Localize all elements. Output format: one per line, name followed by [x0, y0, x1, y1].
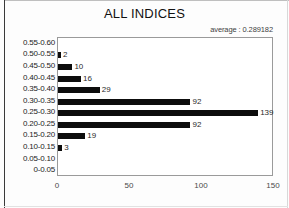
bar-value-label: 16	[83, 75, 92, 83]
bar-value-label: 29	[102, 86, 111, 94]
y-tick-label: 0.55-0.60	[23, 39, 55, 47]
x-tick-label: 100	[194, 182, 207, 190]
bar-row: 10	[58, 63, 272, 71]
bar-row: 3	[58, 144, 272, 152]
bar[interactable]	[58, 99, 190, 105]
x-tick-label: 0	[55, 182, 59, 190]
bar-value-label: 10	[74, 63, 83, 71]
bar-row: 92	[58, 98, 272, 106]
bar-row: 139	[58, 109, 272, 117]
bar-value-label: 92	[192, 98, 201, 106]
x-tick-label: 150	[266, 182, 279, 190]
bar-value-label: 92	[192, 121, 201, 129]
bar[interactable]	[58, 133, 85, 139]
bar-row: 92	[58, 121, 272, 129]
y-axis: 0.55-0.600.50-0.550.45-0.500.40-0.450.35…	[8, 37, 55, 176]
average-annotation: average : 0.289182	[210, 25, 273, 34]
x-tick-label: 50	[125, 182, 134, 190]
bars-layer: 21016299213992193	[58, 38, 272, 175]
bar-row: 2	[58, 51, 272, 59]
plot-area: 21016299213992193	[57, 37, 273, 176]
x-axis: 050100150	[57, 182, 273, 196]
y-tick-label: 0.40-0.45	[23, 74, 55, 82]
chart-window: ALL INDICES average : 0.289182 0.55-0.60…	[0, 0, 289, 208]
bar-row	[58, 156, 272, 164]
y-tick-label: 0.10-0.15	[23, 143, 55, 151]
chart-title: ALL INDICES	[0, 6, 289, 21]
bar-row: 16	[58, 75, 272, 83]
y-tick-label: 0.30-0.35	[23, 97, 55, 105]
bar[interactable]	[58, 76, 81, 82]
y-tick-label: 0.50-0.55	[23, 50, 55, 58]
bar-value-label: 139	[260, 109, 273, 117]
bar[interactable]	[58, 145, 62, 151]
y-tick-label: 0.35-0.40	[23, 85, 55, 93]
bar-row: 29	[58, 86, 272, 94]
window-frame-right	[287, 0, 288, 208]
window-frame-left	[4, 0, 5, 208]
y-tick-label: 0.20-0.25	[23, 120, 55, 128]
bar[interactable]	[58, 87, 100, 93]
bar-value-label: 3	[64, 144, 68, 152]
bar[interactable]	[58, 122, 190, 128]
y-tick-label: 0.25-0.30	[23, 108, 55, 116]
bar[interactable]	[58, 110, 258, 116]
bar[interactable]	[58, 52, 61, 58]
y-tick-label: 0.45-0.50	[23, 62, 55, 70]
bar-row: 19	[58, 132, 272, 140]
y-tick-label: 0-0.05	[34, 166, 55, 174]
y-tick-label: 0.05-0.10	[23, 155, 55, 163]
window-frame-top	[4, 0, 289, 1]
bar-row	[58, 167, 272, 175]
bar-value-label: 19	[87, 132, 96, 140]
bar[interactable]	[58, 64, 72, 70]
window-frame-bottom	[4, 206, 288, 207]
bar-value-label: 2	[63, 51, 67, 59]
y-tick-label: 0.15-0.20	[23, 131, 55, 139]
bar-row	[58, 40, 272, 48]
